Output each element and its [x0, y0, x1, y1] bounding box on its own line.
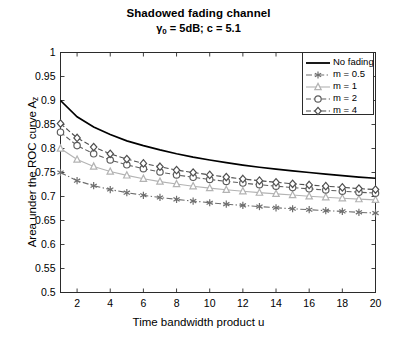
legend-item-m4[interactable]: m = 4: [305, 103, 373, 115]
legend-swatch-star-icon: [305, 67, 331, 79]
series-m1: [57, 145, 378, 203]
y-tick-label: 0.55: [16, 262, 56, 274]
legend-label: No fading: [333, 56, 374, 67]
y-tick-label: 0.5: [16, 286, 56, 298]
x-tick-label: 6: [128, 297, 158, 309]
legend[interactable]: No fadingm = 0.5m = 1m = 2m = 4: [302, 52, 374, 115]
x-tick-label: 16: [294, 297, 324, 309]
figure-canvas: Shadowed fading channel γ0 = 5dB; c = 5.…: [0, 0, 397, 341]
legend-swatch-circle-icon: [305, 91, 331, 103]
y-tick-label: 0.8: [16, 142, 56, 154]
legend-item-m05[interactable]: m = 0.5: [305, 67, 373, 79]
x-tick-label: 12: [228, 297, 258, 309]
legend-item-m2[interactable]: m = 2: [305, 91, 373, 103]
y-tick-label: 0.9: [16, 94, 56, 106]
x-tick-label: 8: [162, 297, 192, 309]
legend-swatch-triangle-icon: [305, 79, 331, 91]
series-m4: [57, 120, 378, 193]
y-tick-label: 0.95: [16, 70, 56, 82]
x-tick-label: 10: [195, 297, 225, 309]
legend-swatch-diamond-icon: [305, 103, 331, 115]
y-tick-label: 0.85: [16, 118, 56, 130]
y-tick-label: 0.75: [16, 166, 56, 178]
data-series-group: [57, 101, 378, 217]
x-tick-label: 20: [361, 297, 391, 309]
x-tick-label: 4: [95, 297, 125, 309]
legend-item-m1[interactable]: m = 1: [305, 79, 373, 91]
legend-swatch-none-icon: [305, 55, 331, 67]
y-tick-label: 0.65: [16, 214, 56, 226]
legend-label: m = 1: [333, 80, 357, 91]
legend-label: m = 2: [333, 92, 357, 103]
y-tick-label: 1: [16, 46, 56, 58]
x-tick-label: 18: [327, 297, 357, 309]
x-tick-label: 14: [261, 297, 291, 309]
x-tick-label: 2: [62, 297, 92, 309]
y-tick-label: 0.7: [16, 190, 56, 202]
legend-rows: No fadingm = 0.5m = 1m = 2m = 4: [303, 53, 373, 115]
y-tick-label: 0.6: [16, 238, 56, 250]
legend-item-nofading[interactable]: No fading: [305, 55, 373, 67]
legend-label: m = 4: [333, 104, 357, 115]
legend-label: m = 0.5: [333, 68, 365, 79]
